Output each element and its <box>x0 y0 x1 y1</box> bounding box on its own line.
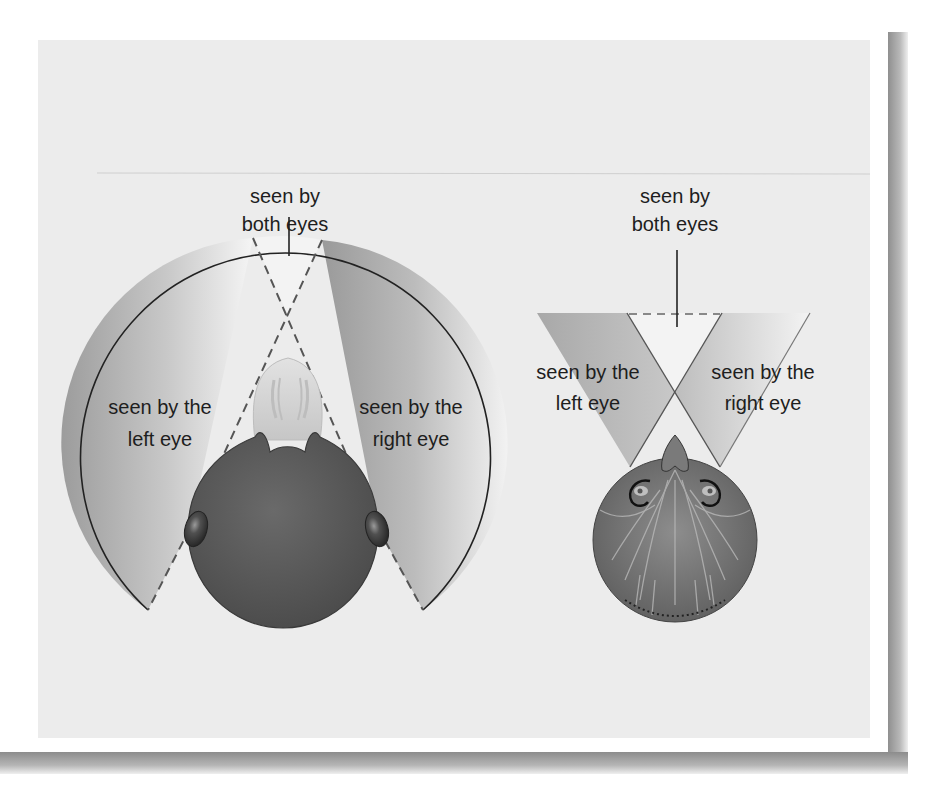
label-both-eyes-duck-line2: both eyes <box>242 213 329 235</box>
binocular-vision-diagram: seen by both eyes seen by the left eye s… <box>0 0 933 785</box>
label-right-eye-duck-line2: right eye <box>373 428 450 450</box>
label-right-eye-owl-line2: right eye <box>725 392 802 414</box>
label-right-eye-duck: seen by the <box>359 396 462 418</box>
binocular-field-duck <box>253 236 322 315</box>
label-both-eyes-owl: seen by <box>640 185 710 207</box>
label-both-eyes-duck: seen by <box>250 185 320 207</box>
label-left-eye-duck: seen by the <box>108 396 211 418</box>
owl-beak <box>662 435 689 471</box>
label-left-eye-duck-line2: left eye <box>128 428 192 450</box>
duck-vision-diagram: seen by both eyes seen by the left eye s… <box>61 185 507 628</box>
label-both-eyes-owl-line2: both eyes <box>632 213 719 235</box>
label-right-eye-owl: seen by the <box>711 361 814 383</box>
scan-line <box>97 173 870 174</box>
label-left-eye-owl-line2: left eye <box>556 392 620 414</box>
duck-bill <box>253 358 322 440</box>
label-left-eye-owl: seen by the <box>536 361 639 383</box>
duck-head <box>188 433 378 628</box>
owl-vision-diagram: seen by both eyes seen by the left eye s… <box>536 185 814 622</box>
